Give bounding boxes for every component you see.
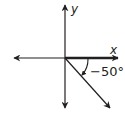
angle-diagram: y x −50° (0, 0, 125, 116)
y-axis-label: y (70, 2, 79, 16)
x-axis-label: x (109, 43, 118, 57)
angle-label: −50° (90, 64, 124, 79)
angle-arc-arrow (82, 59, 88, 75)
diagram-canvas: y x −50° (0, 0, 125, 116)
